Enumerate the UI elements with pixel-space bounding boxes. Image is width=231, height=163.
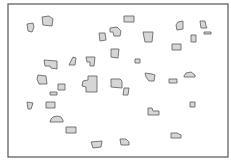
building-footprint-e	[99, 33, 106, 41]
building-footprint-t	[111, 79, 122, 88]
building-footprint-r	[58, 84, 65, 90]
building-footprint-k	[172, 44, 181, 50]
building-footprint-af	[171, 133, 181, 138]
building-footprint-c	[124, 16, 134, 22]
building-footprint-p	[135, 59, 140, 63]
footprint-map	[0, 0, 231, 163]
building-footprint-w	[169, 79, 177, 83]
building-footprint-f	[143, 32, 153, 42]
building-footprint-q	[37, 75, 47, 84]
building-footprint-y	[50, 92, 57, 95]
building-footprint-i	[204, 32, 211, 34]
building-footprint-a	[27, 23, 34, 32]
building-footprint-aa	[46, 102, 55, 108]
building-footprint-j	[191, 35, 196, 42]
building-footprint-b	[42, 16, 53, 26]
building-footprint-ag	[91, 141, 102, 148]
building-footprint-ae	[66, 127, 76, 133]
building-footprint-u	[123, 88, 129, 95]
building-footprint-l	[111, 49, 119, 58]
building-footprint-ab	[190, 102, 195, 107]
